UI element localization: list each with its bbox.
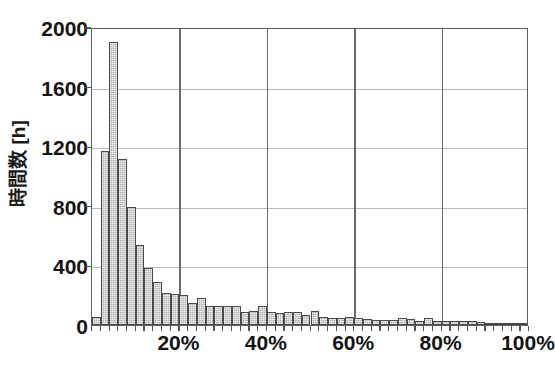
histogram-bar — [206, 306, 215, 325]
gridline-vertical — [354, 29, 355, 325]
histogram-bar — [433, 321, 442, 325]
histogram-bar — [136, 245, 145, 325]
histogram-bar — [101, 151, 110, 325]
histogram-bar — [363, 319, 372, 325]
y-axis-tick-label: 1200 — [30, 137, 88, 158]
histogram-bar — [118, 159, 127, 325]
histogram-bar — [459, 321, 468, 325]
x-axis-tick-mark — [327, 326, 328, 331]
histogram-bar — [197, 298, 206, 325]
x-axis-tick-mark — [117, 326, 118, 331]
histogram-bar — [503, 323, 512, 325]
x-axis-tick-mark — [213, 326, 214, 331]
x-axis-tick-mark — [301, 326, 302, 331]
histogram-bar — [311, 311, 320, 325]
x-axis-tick-mark — [240, 326, 241, 331]
histogram-bar — [214, 306, 223, 325]
histogram-bar — [223, 306, 232, 325]
histogram-bar — [144, 268, 153, 325]
histogram-bar — [258, 306, 267, 325]
x-axis-tick-mark — [135, 326, 136, 331]
histogram-bar — [372, 320, 381, 325]
histogram-bar — [267, 312, 276, 325]
x-axis-tick-mark — [91, 326, 92, 331]
x-axis-tick-label: 100% — [501, 332, 555, 353]
x-axis-tick-mark — [205, 326, 206, 331]
histogram-bar — [354, 318, 363, 325]
histogram-bar — [442, 321, 451, 325]
histogram-bar — [109, 42, 118, 325]
histogram-bar — [171, 294, 180, 325]
x-axis-tick-mark — [310, 326, 311, 331]
plot-area — [91, 28, 528, 326]
histogram-bar — [450, 321, 459, 325]
x-axis-tick-mark — [406, 326, 407, 331]
gridline-horizontal — [92, 208, 527, 209]
y-axis-tick-label: 1600 — [30, 77, 88, 98]
x-axis-tick-mark — [397, 326, 398, 331]
x-axis-tick-label: 60% — [332, 332, 374, 353]
histogram-bar — [162, 293, 171, 325]
x-axis-tick-mark — [414, 326, 415, 331]
histogram-bar — [284, 312, 293, 325]
y-axis-tick-label: 800 — [30, 196, 88, 217]
histogram-bar — [494, 323, 503, 325]
gridline-horizontal — [92, 89, 527, 90]
histogram-bar — [153, 282, 162, 325]
histogram-bar — [468, 321, 477, 325]
histogram-bar — [520, 323, 528, 325]
x-axis-tick-mark — [318, 326, 319, 331]
x-axis-tick-mark — [292, 326, 293, 331]
x-axis-tick-labels: 20%40%60%80%100% — [0, 332, 553, 366]
x-axis-tick-label: 20% — [157, 332, 199, 353]
histogram-bar — [328, 318, 337, 325]
histogram-bar — [485, 323, 494, 325]
histogram-bar — [512, 323, 521, 325]
histogram-bar — [424, 318, 433, 325]
y-axis-tick-label: 400 — [30, 256, 88, 277]
x-axis-tick-mark — [126, 326, 127, 331]
x-axis-tick-mark — [476, 326, 477, 331]
x-axis-tick-mark — [467, 326, 468, 331]
histogram-bar — [302, 315, 311, 325]
gridline-vertical — [442, 29, 443, 325]
x-axis-tick-label: 80% — [420, 332, 462, 353]
histogram-bar — [188, 303, 197, 325]
x-axis-tick-mark — [231, 326, 232, 331]
histogram-bar — [241, 312, 250, 325]
x-axis-tick-mark — [100, 326, 101, 331]
gridline-horizontal — [92, 148, 527, 149]
gridline-vertical — [267, 29, 268, 325]
histogram-bar — [345, 317, 354, 325]
histogram-bar — [249, 311, 258, 325]
y-axis-tick-label: 2000 — [30, 18, 88, 39]
histogram-bar — [319, 317, 328, 325]
histogram-bar — [398, 318, 407, 325]
x-axis-tick-label: 40% — [245, 332, 287, 353]
x-axis-tick-mark — [379, 326, 380, 331]
histogram-bar — [415, 321, 424, 325]
histogram-bar — [380, 320, 389, 325]
histogram-bar — [276, 313, 285, 325]
histogram-bar — [92, 317, 101, 325]
x-axis-tick-mark — [109, 326, 110, 331]
histogram-bar — [232, 306, 241, 325]
x-axis-tick-mark — [388, 326, 389, 331]
histogram-bar — [477, 322, 486, 325]
x-axis-tick-mark — [493, 326, 494, 331]
x-axis-tick-mark — [484, 326, 485, 331]
gridline-vertical — [179, 29, 180, 325]
histogram-bar — [179, 295, 188, 325]
histogram-bar — [407, 319, 416, 325]
histogram-bar — [293, 312, 302, 325]
x-axis-tick-mark — [152, 326, 153, 331]
histogram-bar — [127, 207, 136, 325]
x-axis-tick-mark — [143, 326, 144, 331]
gridline-horizontal — [92, 267, 527, 268]
histogram-bar — [337, 318, 346, 325]
histogram-bar — [389, 320, 398, 325]
x-axis-tick-mark — [222, 326, 223, 331]
y-axis-tick-labels: 2000160012008004000 — [26, 0, 88, 372]
